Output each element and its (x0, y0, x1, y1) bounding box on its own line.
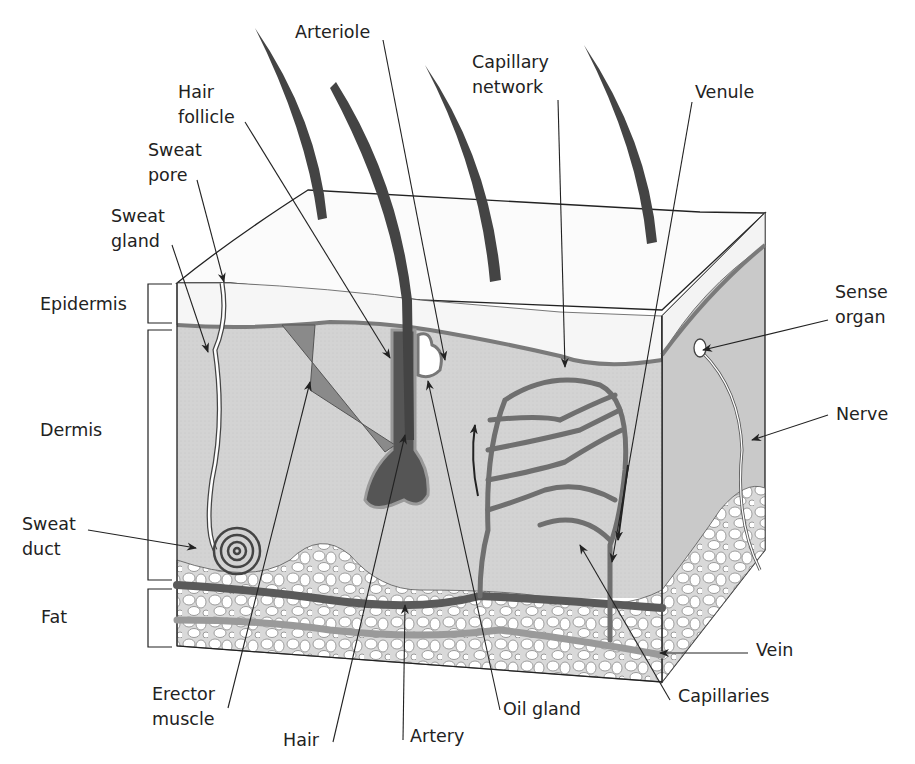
label-sense-organ: Sense organ (835, 280, 888, 330)
label-vein: Vein (756, 638, 793, 663)
label-epidermis: Epidermis (40, 292, 127, 317)
label-erector-muscle: Erector muscle (152, 682, 215, 732)
hair-1 (255, 28, 327, 220)
label-dermis: Dermis (40, 418, 102, 443)
label-sweat-gland: Sweat gland (111, 204, 165, 254)
label-venule: Venule (695, 80, 754, 105)
label-hair: Hair (283, 728, 319, 753)
label-oil-gland: Oil gland (503, 697, 581, 722)
label-nerve: Nerve (836, 402, 888, 427)
label-sweat-pore: Sweat pore (148, 138, 202, 188)
sense-organ (694, 339, 706, 357)
label-hair-follicle: Hair follicle (178, 80, 235, 130)
label-artery: Artery (410, 724, 464, 749)
layer-brackets (148, 284, 172, 647)
label-fat: Fat (41, 605, 67, 630)
label-sweat-duct: Sweat duct (22, 512, 76, 562)
label-capillaries: Capillaries (678, 684, 769, 709)
label-arteriole: Arteriole (295, 20, 370, 45)
label-capillary-network: Capillary network (472, 50, 549, 100)
